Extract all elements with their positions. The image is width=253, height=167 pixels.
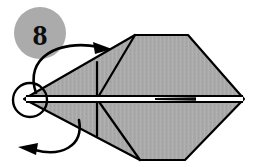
origami-diagram-canvas: 8 [0, 0, 253, 167]
step-badge-label: 8 [33, 18, 48, 51]
center-open-edge [26, 96, 243, 102]
step-number-badge: 8 [14, 7, 66, 59]
origami-diagram-page: 8 [0, 0, 253, 167]
